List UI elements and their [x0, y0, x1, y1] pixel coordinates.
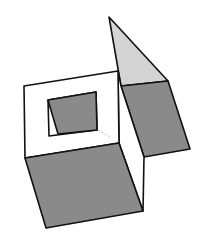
folded-shape-diagram — [0, 0, 209, 237]
hole-inner-shaded-face — [48, 92, 97, 134]
